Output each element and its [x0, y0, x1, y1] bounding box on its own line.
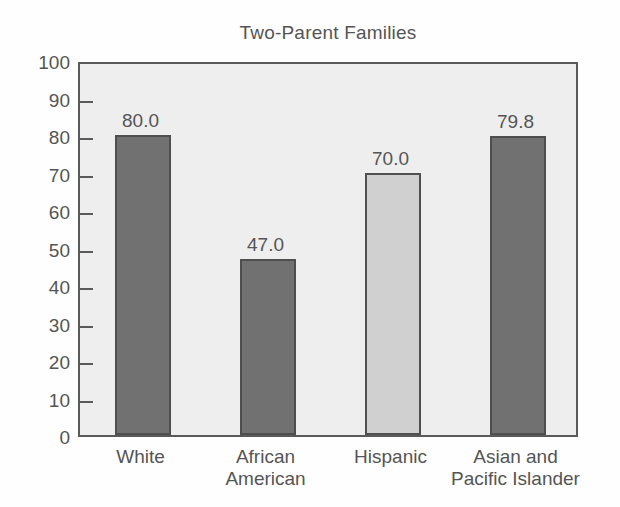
x-axis-category-line: African	[225, 446, 305, 468]
y-axis-tick-label: 40	[0, 278, 70, 297]
bar-1[interactable]	[240, 259, 296, 435]
x-axis-category-line: Hispanic	[354, 446, 427, 468]
bar-value-label: 80.0	[122, 111, 159, 130]
y-axis-tick-label: 100	[0, 53, 70, 72]
y-axis-tick-mark	[80, 213, 93, 215]
bar-0[interactable]	[115, 135, 171, 435]
y-axis-tick-label: 20	[0, 353, 70, 372]
x-axis-category-label: Asian andPacific Islander	[451, 446, 580, 491]
x-axis-category-line: American	[225, 468, 305, 490]
bar-2[interactable]	[365, 173, 421, 436]
y-axis-tick-label: 50	[0, 240, 70, 259]
y-axis-tick-label: 10	[0, 390, 70, 409]
x-axis-category-label: White	[116, 446, 165, 468]
x-axis-category-line: Pacific Islander	[451, 468, 580, 490]
y-axis-tick-mark	[80, 138, 93, 140]
bar-value-label: 79.8	[497, 112, 534, 131]
x-axis-category-line: Asian and	[451, 446, 580, 468]
y-axis-tick-mark	[80, 401, 93, 403]
y-axis-tick-mark	[80, 288, 93, 290]
y-axis-tick-label: 90	[0, 90, 70, 109]
y-axis-tick-label: 80	[0, 128, 70, 147]
x-axis-category-label: Hispanic	[354, 446, 427, 468]
chart-title: Two-Parent Families	[78, 22, 578, 44]
bar-value-label: 47.0	[247, 235, 284, 254]
y-axis-tick-mark	[80, 101, 93, 103]
y-axis-tick-label: 60	[0, 203, 70, 222]
y-axis: 0102030405060708090100	[0, 62, 70, 437]
y-axis-tick-mark	[80, 326, 93, 328]
bar-3[interactable]	[490, 136, 546, 435]
x-axis-category-line: White	[116, 446, 165, 468]
y-axis-tick-label: 0	[0, 428, 70, 447]
y-axis-tick-mark	[80, 363, 93, 365]
y-axis-tick-label: 70	[0, 165, 70, 184]
x-axis-category-label: AfricanAmerican	[225, 446, 305, 491]
y-axis-tick-mark	[80, 176, 93, 178]
y-axis-tick-label: 30	[0, 315, 70, 334]
y-axis-tick-mark	[80, 251, 93, 253]
bar-value-label: 70.0	[372, 149, 409, 168]
bar-chart-figure: Two-Parent Families 01020304050607080901…	[0, 0, 620, 507]
